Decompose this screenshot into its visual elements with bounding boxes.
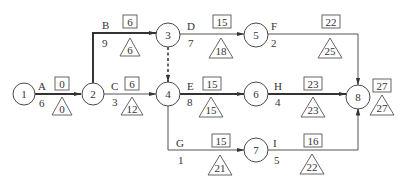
latest-start-value: 6 — [127, 44, 133, 56]
activity-duration: 8 — [187, 96, 193, 108]
activity-duration: 7 — [188, 37, 194, 49]
node-label: 5 — [253, 29, 259, 41]
activity-d: D 7 15 18 — [187, 15, 233, 58]
activity-duration: 4 — [275, 96, 281, 108]
latest-start-value: 18 — [216, 45, 228, 57]
activity-name: G — [176, 137, 184, 149]
node-label: 4 — [165, 88, 171, 100]
latest-start-value: 22 — [307, 161, 318, 173]
activity-name: C — [111, 80, 118, 92]
earliest-start-value: 23 — [308, 78, 320, 90]
activity-i: I 5 16 22 — [273, 134, 324, 174]
activity-h: H 4 23 23 — [274, 77, 325, 117]
activity-duration: 5 — [274, 154, 280, 166]
activity-a: A 6 0 0 — [38, 77, 72, 115]
earliest-start-value: 6 — [129, 78, 135, 90]
latest-start-value: 25 — [325, 45, 337, 57]
node-7: 7 — [244, 138, 268, 162]
activity-f: F 2 22 25 — [271, 15, 342, 58]
latest-start-value: 21 — [215, 162, 226, 174]
node-6: 6 — [244, 82, 268, 106]
activity-name: A — [38, 80, 46, 92]
finish-box-value: 27 — [377, 80, 389, 92]
earliest-start-value: 15 — [217, 16, 229, 28]
finish-triangle-value: 27 — [377, 102, 389, 114]
activity-name: I — [273, 137, 277, 149]
earliest-start-value: 15 — [207, 78, 219, 90]
node-label: 1 — [21, 88, 27, 100]
earliest-start-value: 0 — [59, 78, 65, 90]
activity-name: H — [274, 80, 282, 92]
node-label: 2 — [90, 88, 96, 100]
node-8: 8 — [346, 85, 370, 109]
activity-duration: 3 — [112, 96, 118, 108]
latest-start-value: 15 — [206, 104, 218, 116]
activity-duration: 1 — [178, 154, 184, 166]
activity-name: D — [187, 20, 195, 32]
activity-name: F — [271, 20, 277, 32]
node-label: 7 — [253, 144, 259, 156]
node-2: 2 — [82, 83, 104, 105]
latest-start-value: 23 — [308, 104, 320, 116]
latest-start-value: 0 — [59, 103, 65, 115]
activity-e: E 8 15 15 — [187, 77, 223, 117]
activity-name: E — [187, 80, 194, 92]
node-3: 3 — [156, 23, 180, 47]
earliest-start-value: 6 — [127, 16, 133, 28]
activity-duration: 6 — [39, 97, 45, 109]
earliest-start-value: 15 — [216, 135, 228, 147]
latest-start-value: 12 — [127, 103, 138, 115]
node-label: 8 — [355, 91, 361, 103]
finish-values: 27 27 — [370, 79, 394, 115]
activity-c: C 3 6 12 — [111, 77, 143, 115]
network-diagram: 1 2 3 4 5 6 7 8 A 6 0 0 B 9 6 — [0, 0, 403, 186]
activity-duration: 2 — [271, 37, 277, 49]
node-4: 4 — [156, 82, 180, 106]
node-label: 6 — [253, 88, 259, 100]
node-5: 5 — [244, 23, 268, 47]
activity-b: B 9 6 6 — [102, 15, 140, 56]
activity-duration: 9 — [102, 37, 108, 49]
earliest-start-value: 16 — [308, 135, 320, 147]
activity-g: G 1 15 21 — [176, 134, 232, 175]
activity-name: B — [102, 19, 109, 31]
node-label: 3 — [165, 29, 171, 41]
node-1: 1 — [13, 83, 35, 105]
earliest-start-value: 22 — [326, 16, 337, 28]
